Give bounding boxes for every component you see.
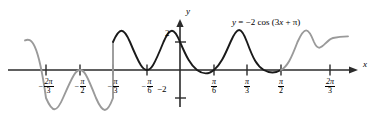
fraction-denominator: 6 [147, 87, 153, 95]
fraction-denominator: 2 [278, 87, 284, 95]
fraction-denominator: 3 [113, 87, 119, 95]
fraction: π6 [147, 78, 153, 96]
x-tick-label-minus-pi-over-6: −π6 [133, 78, 161, 96]
fraction: π2 [278, 78, 284, 96]
x-tick-label-pi-over-2: π2 [271, 78, 291, 96]
fraction-denominator: 3 [44, 87, 54, 95]
fraction: 2π3 [325, 78, 335, 96]
curve-segment-left-muted [25, 40, 113, 110]
fraction: π2 [80, 78, 86, 96]
x-tick-label-pi-over-3: π3 [237, 78, 257, 96]
y-axis [176, 19, 183, 107]
y-tick-label-2: 2 [165, 28, 170, 38]
fraction: π6 [211, 78, 217, 96]
x-tick-label-2pi-over-3: 2π3 [318, 78, 342, 96]
x-tick-sign: − [107, 83, 112, 91]
y-axis-label: y [186, 6, 190, 16]
fraction: π3 [244, 78, 250, 96]
trig-graph-figure: y = −2 cos (3x + π) y x 2 −2 −2π3 −π2 −π… [0, 0, 376, 114]
x-tick-sign: − [38, 83, 43, 91]
equation-tail: + π) [283, 17, 300, 27]
equation-body: = −2 cos (3 [236, 17, 279, 27]
fraction: π3 [113, 78, 119, 96]
fraction-denominator: 2 [80, 87, 86, 95]
x-tick-label-minus-pi-over-2: −π2 [66, 78, 94, 96]
plot-canvas [0, 0, 376, 114]
x-tick-label-minus-2pi-over-3: −2π3 [31, 78, 61, 96]
x-axis [8, 66, 358, 73]
fraction-denominator: 3 [325, 87, 335, 95]
x-tick-sign: − [74, 83, 79, 91]
fraction: 2π3 [44, 78, 54, 96]
curve-segment-right-muted [281, 30, 348, 70]
x-tick-label-minus-pi-over-3: −π3 [99, 78, 127, 96]
equation-annotation: y = −2 cos (3x + π) [232, 17, 300, 27]
x-tick-sign: − [141, 83, 146, 91]
x-axis-label: x [363, 59, 367, 69]
fraction-denominator: 6 [211, 87, 217, 95]
fraction-denominator: 3 [244, 87, 250, 95]
x-tick-label-pi-over-6: π6 [204, 78, 224, 96]
curve-segment-center-dark [113, 30, 281, 73]
